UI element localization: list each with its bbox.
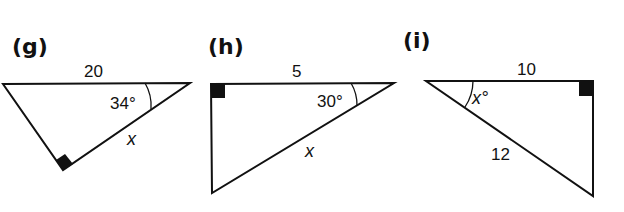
angle-arc-g — [145, 83, 151, 109]
triangle-h: (h) 5 30° x — [208, 34, 394, 193]
side-label-h-top: 5 — [292, 62, 301, 81]
part-label-i: (i) — [403, 28, 431, 53]
angle-label-i: x° — [471, 88, 488, 108]
hypotenuse-label-i: 12 — [491, 145, 510, 164]
angle-label-g: 34° — [110, 94, 136, 113]
triangle-i: (i) 10 x° 12 — [403, 28, 593, 196]
trig-triangles-figure: (g) 20 34° x (h) 5 30° x (i) 10 x° 12 — [0, 0, 624, 212]
angle-arc-h — [351, 83, 357, 106]
triangle-i-outline — [426, 81, 593, 196]
unknown-label-g: x — [126, 129, 137, 149]
triangle-h-outline — [211, 83, 394, 193]
unknown-label-h: x — [304, 141, 315, 161]
part-label-h: (h) — [208, 34, 244, 59]
part-label-g: (g) — [12, 34, 48, 59]
side-label-i-top: 10 — [517, 60, 536, 79]
angle-label-h: 30° — [317, 92, 343, 111]
right-angle-marker-g — [56, 154, 73, 170]
right-angle-marker-i — [579, 81, 593, 96]
triangle-g-outline — [3, 83, 190, 170]
right-angle-marker-h — [211, 84, 225, 98]
triangle-g: (g) 20 34° x — [3, 34, 190, 170]
side-label-g-top: 20 — [84, 62, 103, 81]
